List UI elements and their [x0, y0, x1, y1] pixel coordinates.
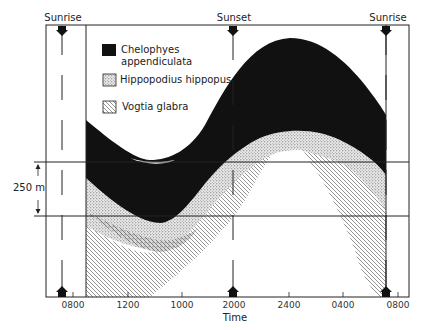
migration-chart — [0, 0, 436, 330]
legend-label-chelophyes: Chelophyes appendiculata — [121, 44, 192, 68]
sunset-label: Sunset — [217, 12, 251, 23]
sunset-arrow-top — [227, 26, 239, 36]
legend-label-vogtia: Vogtia glabra — [122, 101, 188, 113]
legend-swatch-vogtia — [103, 101, 116, 113]
x-tick-2000: 2000 — [223, 300, 246, 310]
sunrise-arrow-top-left — [56, 26, 68, 36]
x-tick-0800-right: 0800 — [387, 300, 410, 310]
x-tick-0800-left: 0800 — [62, 300, 85, 310]
legend-label-chelophyes-line2: appendiculata — [121, 56, 192, 68]
legend-label-chelophyes-line1: Chelophyes — [121, 44, 192, 56]
x-tick-2400: 2400 — [278, 300, 301, 310]
sunrise-label-right: Sunrise — [369, 12, 406, 23]
x-axis-title: Time — [223, 312, 247, 323]
x-tick-0400: 0400 — [332, 300, 355, 310]
legend-label-hippopodius: Hippopodius hippopus — [120, 74, 231, 86]
sunrise-label-left: Sunrise — [44, 12, 81, 23]
x-tick-1000: 1000 — [171, 300, 194, 310]
x-tick-1200: 1200 — [117, 300, 140, 310]
scale-bar-label: 250 m — [13, 182, 45, 193]
sunrise-arrow-bottom-left — [56, 286, 68, 297]
legend-swatch-chelophyes — [102, 44, 116, 56]
legend-swatch-hippopodius — [103, 74, 116, 86]
sunset-arrow-bottom — [227, 286, 239, 297]
sunrise-arrow-top-right — [380, 26, 392, 36]
